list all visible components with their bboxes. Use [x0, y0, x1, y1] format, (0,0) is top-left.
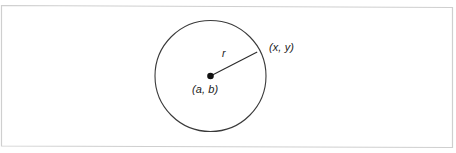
circle-diagram-svg — [0, 0, 456, 153]
radius-line — [211, 52, 258, 76]
center-point-label: (a, b) — [192, 84, 218, 95]
center-point-dot — [207, 73, 214, 80]
figure-container: r (x, y) (a, b) — [0, 0, 456, 153]
circle-point-label: (x, y) — [269, 42, 294, 53]
figure-border — [2, 6, 453, 148]
radius-label: r — [222, 48, 226, 59]
